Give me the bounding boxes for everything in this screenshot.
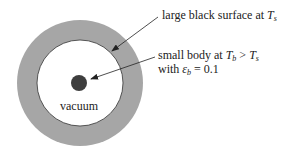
- body-label-line2: with εb = 0.1: [158, 63, 219, 79]
- surface-temp-sub-2: s: [256, 54, 259, 63]
- emissivity-value: = 0.1: [191, 62, 219, 76]
- greater-than-operator: >: [236, 48, 249, 62]
- vacuum-label: vacuum: [60, 100, 98, 113]
- surface-temp-var: T: [267, 8, 274, 22]
- surface-temp-sub: s: [274, 14, 277, 23]
- surface-label-text: large black surface at: [162, 8, 267, 22]
- surface-temp-var-2: T: [249, 48, 256, 62]
- surface-label: large black surface at Ts: [162, 9, 277, 25]
- small-body: [71, 75, 87, 91]
- diagram-canvas: large black surface at Ts small body at …: [0, 0, 291, 150]
- body-label-text: small body at: [158, 48, 226, 62]
- with-text: with: [158, 62, 182, 76]
